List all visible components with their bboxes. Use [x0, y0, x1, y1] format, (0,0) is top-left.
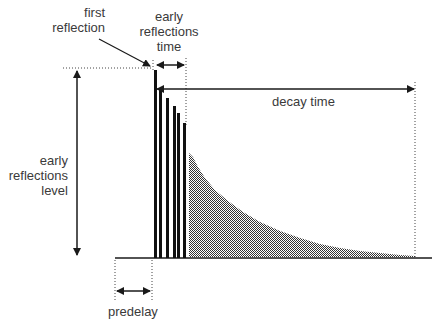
- label-line: reflection: [45, 20, 105, 35]
- early-reflections-level-label: early reflections level: [2, 153, 68, 198]
- label-line: reflections: [134, 24, 204, 39]
- early-reflections-time-label: early reflections time: [134, 9, 204, 54]
- label-line: early: [134, 9, 204, 24]
- label-line: time: [134, 39, 204, 54]
- decay-tail: [189, 153, 415, 257]
- label-line: level: [2, 183, 68, 198]
- predelay-label: predelay: [108, 304, 158, 319]
- guide-lines: [63, 58, 415, 302]
- decay-time-label: decay time: [272, 94, 335, 109]
- early-reflection-bars: [154, 70, 186, 258]
- label-line: early: [2, 153, 68, 168]
- label-line: first: [45, 5, 105, 20]
- first-reflection-label: first reflection: [45, 5, 105, 35]
- label-line: reflections: [2, 168, 68, 183]
